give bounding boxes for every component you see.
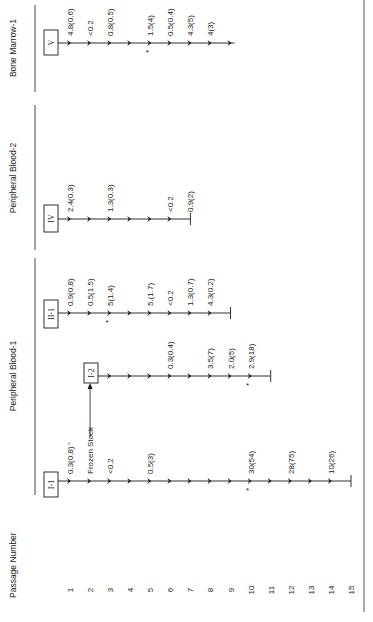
passage-value: 4.3(0.2)	[206, 278, 215, 306]
passage-number: 4	[126, 587, 135, 592]
passage-number: 14	[327, 585, 336, 594]
line-box-label: II-1	[47, 308, 56, 320]
passage-value: 0.3(0.8)⁺	[66, 442, 75, 474]
diagram-canvas: Passage NumberPeripheral Blood-1Peripher…	[0, 0, 373, 622]
passage-value: 0.5(1.5)	[86, 278, 95, 306]
arrow-up-icon	[88, 383, 93, 389]
cell-lines: I-10.3(0.8)⁺Frozen Stock<0.20.5(3)30(54)…	[44, 8, 351, 497]
passage-value: 0.5(3)	[146, 453, 155, 474]
passage-value: <0.2	[166, 196, 175, 212]
passage-value: 2.0(5)	[227, 348, 236, 369]
passage-value: 5(1.4)	[106, 285, 115, 306]
group-header: Peripheral Blood-1	[8, 341, 18, 412]
passage-value: 10(26)	[327, 451, 336, 474]
line-box-label: I-1	[47, 480, 56, 489]
group-headers: Passage NumberPeripheral Blood-1Peripher…	[8, 5, 35, 598]
passage-number: 9	[227, 587, 236, 592]
cell-line-iv: IV2.4(0.3)1.3(0.3)<0.20.9(2)	[44, 184, 195, 232]
passage-number: 7	[186, 587, 195, 592]
group-header: Bone Marrow-1	[8, 19, 18, 77]
passage-number: 10	[247, 585, 256, 594]
passage-value: 0.5(0.4)	[166, 8, 175, 36]
line-box-label: IV	[47, 214, 56, 223]
passage-value: <0.2	[106, 458, 115, 474]
asterisk-icon: *	[146, 48, 149, 57]
cell-line-ii-1: II-10.9(0.8)0.5(1.5)5(1.4)5.(1.7)<0.21.3…	[44, 278, 231, 328]
passage-value: <0.2	[166, 290, 175, 306]
passage-value: 1.5(4)	[146, 15, 155, 36]
passage-value: 4(3)	[206, 21, 215, 36]
passage-number: 13	[307, 585, 316, 594]
cell-line-i-2: I-20.3(0.4)3.5(7)2.0(5)2.9(18)*	[84, 341, 271, 390]
passage-value: 28(75)	[287, 451, 296, 474]
passage-number: 5	[146, 587, 155, 592]
passage-number: 15	[347, 585, 356, 594]
passage-number: 1	[66, 587, 75, 592]
passage-axis: 123456789101112131415	[66, 585, 356, 594]
passage-value: 5.(1.7)	[146, 283, 155, 306]
passage-number: 2	[86, 587, 95, 592]
passage-number: 6	[166, 587, 175, 592]
passage-value: 4.8(0.6)	[66, 8, 75, 36]
asterisk-icon: *	[246, 486, 249, 495]
asterisk-icon: *	[106, 318, 109, 327]
passage-number: 3	[106, 587, 115, 592]
passage-value: 1.3(0.3)	[106, 184, 115, 212]
passage-number: 11	[267, 585, 276, 594]
passage-value: 1.3(0.7)	[186, 278, 195, 306]
passage-value: 0.8(0.5)	[106, 8, 115, 36]
cell-line-v: V4.8(0.6)<0.20.8(0.5)1.5(4)0.5(0.4)4.3(5…	[44, 8, 235, 57]
line-box-label: V	[47, 39, 56, 45]
axis-title: Passage Number	[8, 532, 18, 598]
asterisk-icon: *	[246, 381, 249, 390]
passage-value: 0.9(2)	[186, 191, 195, 212]
passage-value: 3.5(7)	[206, 348, 215, 369]
passage-number: 12	[287, 585, 296, 594]
passage-value: 0.3(0.4)	[166, 341, 175, 369]
passage-value: 30(54)	[247, 451, 256, 474]
passage-value: 4.3(5)	[186, 15, 195, 36]
passage-value: 2.4(0.3)	[66, 184, 75, 212]
passage-diagram: Passage NumberPeripheral Blood-1Peripher…	[0, 0, 373, 622]
passage-value: <0.2	[86, 20, 95, 36]
passage-value: 0.9(0.8)	[66, 278, 75, 306]
group-header: Peripheral Blood-2	[8, 143, 18, 214]
passage-number: 8	[206, 587, 215, 592]
passage-value: Frozen Stock	[86, 426, 95, 474]
line-box-label: I-2	[87, 368, 96, 377]
passage-value: 2.9(18)	[247, 343, 256, 369]
